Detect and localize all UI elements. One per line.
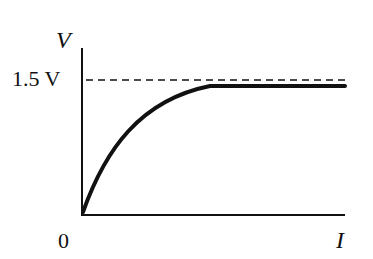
origin-label: 0: [58, 230, 69, 252]
y-axis-label: V: [56, 28, 71, 52]
x-axis-label: I: [336, 228, 344, 252]
v-i-curve: [83, 86, 345, 212]
reference-value-label: 1.5 V: [12, 68, 61, 90]
